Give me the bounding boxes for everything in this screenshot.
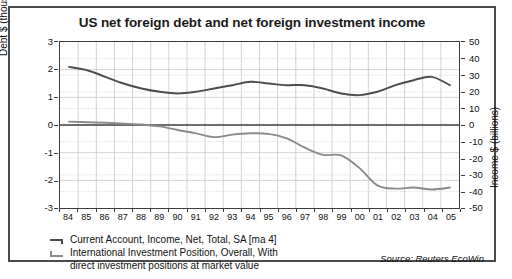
y-tickmark-right xyxy=(461,125,465,126)
x-tick-87: 87 xyxy=(113,212,133,222)
y-tick-right-10: 10 xyxy=(469,104,495,113)
y-tickmark-left xyxy=(54,208,58,209)
y-tickmark-left xyxy=(54,153,58,154)
x-tick-99: 99 xyxy=(332,212,352,222)
x-tickmark xyxy=(460,209,461,212)
y-tick-left-m2: -2 xyxy=(27,175,53,184)
x-tick-95: 95 xyxy=(259,212,279,222)
y-tickmark-right xyxy=(461,75,465,76)
y-tick-left-m3: -3 xyxy=(27,203,53,212)
y-tickmark-right xyxy=(461,41,465,42)
x-tick-97: 97 xyxy=(295,212,315,222)
y-tickmark-right xyxy=(461,159,465,160)
x-tick-85: 85 xyxy=(76,212,96,222)
y-tick-right-30: 30 xyxy=(469,71,495,80)
x-tick-88: 88 xyxy=(131,212,151,222)
x-tick-01: 01 xyxy=(368,212,388,222)
x-tick-91: 91 xyxy=(186,212,206,222)
y-tickmark-left xyxy=(54,41,58,42)
y-tick-left-m1: -1 xyxy=(27,148,53,157)
x-tick-94: 94 xyxy=(240,212,260,222)
y-tick-right-m50: -50 xyxy=(469,203,495,212)
x-tick-93: 93 xyxy=(222,212,242,222)
x-tick-02: 02 xyxy=(386,212,406,222)
legend-item-income: Current Account, Income, Net, Total, SA … xyxy=(50,234,278,246)
y-tickmark-left xyxy=(54,125,58,126)
y-tick-left-3: 3 xyxy=(27,37,53,46)
x-tick-92: 92 xyxy=(204,212,224,222)
y-tick-left-1: 1 xyxy=(27,92,53,101)
y-tick-right-20: 20 xyxy=(469,87,495,96)
x-tick-84: 84 xyxy=(58,212,78,222)
legend-label-income: Current Account, Income, Net, Total, SA … xyxy=(70,234,277,246)
y-axis-right-title: Income $ (billions) xyxy=(489,48,500,188)
y-tickmark-right xyxy=(461,175,465,176)
legend-swatch-iip-icon xyxy=(50,249,65,259)
y-tickmark-right xyxy=(461,208,465,209)
x-tick-03: 03 xyxy=(404,212,424,222)
x-tick-05: 05 xyxy=(441,212,461,222)
y-tickmark-right xyxy=(461,58,465,59)
y-tickmark-left xyxy=(54,97,58,98)
legend-swatch-income-icon xyxy=(50,236,65,246)
y-tick-right-m10: -10 xyxy=(469,137,495,146)
x-tick-86: 86 xyxy=(95,212,115,222)
x-tick-98: 98 xyxy=(313,212,333,222)
y-tick-left-2: 2 xyxy=(27,64,53,73)
y-tick-right-m20: -20 xyxy=(469,154,495,163)
x-tick-04: 04 xyxy=(423,212,443,222)
y-tickmark-right xyxy=(461,108,465,109)
y-tick-right-0: 0 xyxy=(469,120,495,129)
legend-label-iip-line2: direct investment positions at market va… xyxy=(70,260,278,272)
y-tick-left-0: 0 xyxy=(27,120,53,129)
y-tick-right-50: 50 xyxy=(469,37,495,46)
chart-title: US net foreign debt and net foreign inve… xyxy=(10,15,494,30)
plot-area xyxy=(59,41,460,209)
y-axis-left-title: Debt $ (thousand billions) xyxy=(0,0,9,56)
chart-legend: Current Account, Income, Net, Total, SA … xyxy=(50,234,278,272)
y-tick-right-m40: -40 xyxy=(469,187,495,196)
legend-label-iip-line1: International Investment Position, Overa… xyxy=(70,247,278,259)
source-attribution: Source: Reuters EcoWin xyxy=(380,253,484,264)
chart-frame: US net foreign debt and net foreign inve… xyxy=(8,6,496,262)
x-tick-96: 96 xyxy=(277,212,297,222)
y-tickmark-right xyxy=(461,142,465,143)
y-tick-right-40: 40 xyxy=(469,54,495,63)
chart-svg xyxy=(60,42,459,208)
x-tick-90: 90 xyxy=(168,212,188,222)
y-tickmark-right xyxy=(461,92,465,93)
x-tick-00: 00 xyxy=(350,212,370,222)
y-tickmark-right xyxy=(461,192,465,193)
y-tickmark-left xyxy=(54,181,58,182)
x-tick-89: 89 xyxy=(149,212,169,222)
legend-item-iip: International Investment Position, Overa… xyxy=(50,247,278,259)
y-tick-right-m30: -30 xyxy=(469,170,495,179)
y-tickmark-left xyxy=(54,69,58,70)
